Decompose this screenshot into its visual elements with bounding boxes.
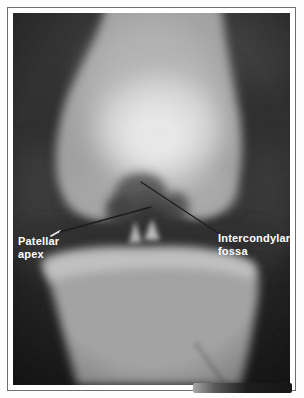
label-intercondylar-fossa-line1: Intercondylar	[218, 232, 290, 245]
knee-xray-image	[13, 13, 290, 385]
xray-anatomy	[13, 13, 290, 385]
label-intercondylar-fossa-line2: fossa	[218, 245, 290, 258]
radiograph-frame: Patellar apex Intercondylar fossa	[7, 7, 296, 391]
label-patellar-apex-line2: apex	[18, 248, 59, 261]
scan-shadow-artifact	[193, 383, 292, 393]
label-patellar-apex: Patellar apex	[18, 235, 59, 261]
figure-page: Patellar apex Intercondylar fossa	[0, 0, 304, 398]
film-grain	[13, 13, 290, 385]
label-patellar-apex-line1: Patellar	[18, 235, 59, 248]
knee-radiograph: Patellar apex Intercondylar fossa	[13, 13, 290, 385]
label-intercondylar-fossa: Intercondylar fossa	[218, 232, 290, 258]
